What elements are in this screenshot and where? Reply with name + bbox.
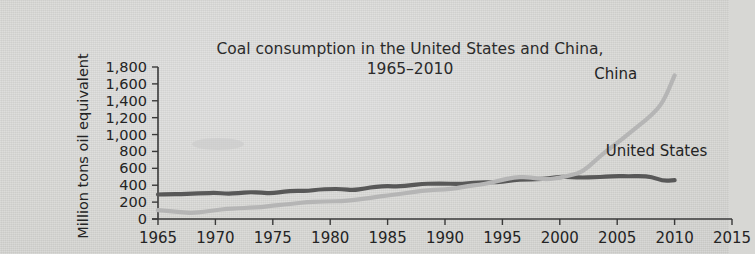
x-tick-label: 2010 [656,229,694,247]
x-tick-label: 1990 [426,229,464,247]
x-tick-label: 2015 [713,229,751,247]
x-tick-label: 1965 [139,229,177,247]
x-tick-label: 1985 [369,229,407,247]
x-tick-label: 1975 [254,229,292,247]
x-axis-ticks: 1965197019751980198519901995200020052010… [139,219,751,247]
series-label-china: China [594,65,637,83]
y-tick-label: 1,800 [105,59,147,75]
x-tick-label: 1970 [196,229,234,247]
x-tick-label: 2000 [541,229,579,247]
y-axis-ticks: 02004006008001,0001,2001,4001,6001,800 [105,59,158,227]
y-tick-label: 0 [138,211,147,227]
y-tick-label: 1,400 [105,93,147,109]
scan-smudge-artifact [192,138,244,150]
chart-title: Coal consumption in the United States an… [217,40,604,58]
y-tick-label: 200 [119,194,147,210]
y-tick-label: 1,200 [105,110,147,126]
y-tick-label: 400 [119,177,147,193]
chart-canvas: Coal consumption in the United States an… [40,16,755,254]
y-tick-label: 800 [119,143,147,159]
y-tick-label: 600 [119,160,147,176]
y-tick-label: 1,000 [105,127,147,143]
x-tick-label: 1980 [311,229,349,247]
series-label-united-states: United States [606,142,708,160]
coal-consumption-line-chart: Coal consumption in the United States an… [40,16,689,238]
x-tick-label: 2005 [598,229,636,247]
y-tick-label: 1,600 [105,76,147,92]
x-tick-label: 1995 [483,229,521,247]
y-axis-title: Million tons oil equivalent [75,53,91,239]
chart-subtitle: 1965–2010 [367,60,454,78]
